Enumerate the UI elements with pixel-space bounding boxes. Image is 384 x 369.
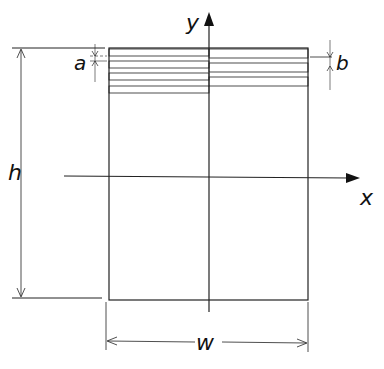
stripes-left: [109, 49, 209, 93]
width-label: w: [196, 330, 215, 355]
height-label: h: [8, 160, 22, 185]
x-axis-line: [64, 176, 350, 178]
x-axis-label: x: [359, 185, 374, 210]
layer-gap-label: a: [74, 51, 86, 75]
w-dimension-left: [108, 341, 195, 342]
x-axis-arrow-icon: [346, 173, 360, 183]
cross-section-diagram: y x h w a b: [0, 0, 384, 369]
w-dimension-right: [222, 342, 306, 343]
y-axis-arrow-icon: [204, 12, 214, 26]
y-axis-label: y: [185, 10, 200, 35]
stripes-right: [209, 49, 308, 86]
layer-thickness-label: b: [336, 51, 349, 75]
